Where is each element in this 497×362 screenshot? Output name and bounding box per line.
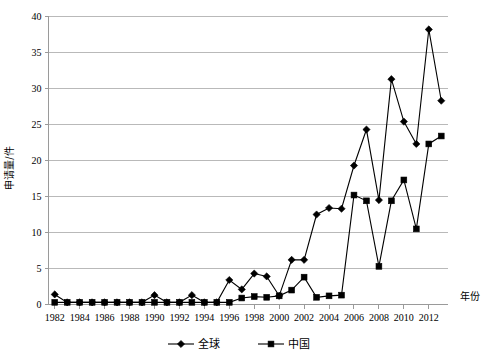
x-tick-label: 1988: [120, 312, 140, 323]
data-point-marker: [127, 299, 133, 305]
data-point-marker: [77, 299, 83, 305]
data-point-marker: [426, 141, 432, 147]
y-tick-label: 35: [32, 47, 42, 58]
chart-container: 0510152025303540 19821984198619881990199…: [0, 0, 497, 362]
legend-group: 全球中国: [168, 337, 310, 351]
y-tick-label: 25: [32, 119, 42, 130]
data-point-marker: [251, 294, 257, 300]
x-tick-label: 1994: [194, 312, 214, 323]
x-tick-label: 2008: [369, 312, 389, 323]
x-tick-label: 2004: [319, 312, 339, 323]
y-tick-label: 10: [32, 227, 42, 238]
x-tick-label: 1984: [70, 312, 90, 323]
legend-marker-square: [268, 341, 274, 347]
y-tick-label: 0: [37, 299, 42, 310]
y-tick-label: 15: [32, 191, 42, 202]
data-point-marker: [339, 292, 345, 298]
data-point-marker: [164, 299, 170, 305]
x-tick-label: 2000: [269, 312, 289, 323]
x-tick-label: 1996: [219, 312, 239, 323]
legend-marker-diamond: [177, 340, 184, 347]
data-point-marker: [438, 133, 444, 139]
data-point-marker: [188, 292, 195, 299]
data-point-marker: [325, 204, 332, 211]
data-point-marker: [276, 293, 282, 299]
data-point-marker: [364, 198, 370, 204]
x-axis-ticks-group: [55, 305, 429, 309]
data-point-marker: [52, 299, 58, 305]
data-point-marker: [363, 126, 370, 133]
data-point-marker: [376, 263, 382, 269]
data-point-marker: [388, 76, 395, 83]
data-point-marker: [51, 291, 58, 298]
x-tick-label: 2010: [394, 312, 414, 323]
y-tick-label: 20: [32, 155, 42, 166]
data-point-marker: [425, 26, 432, 33]
y-axis-ticks-group: [45, 17, 49, 305]
data-point-marker: [177, 299, 183, 305]
data-point-marker: [289, 287, 295, 293]
x-axis-tick-labels-group: 1982198419861988199019921994199619982000…: [45, 312, 439, 323]
x-axis-title: 年份: [460, 290, 480, 302]
data-point-marker: [139, 299, 145, 305]
data-point-marker: [288, 256, 295, 263]
data-point-marker: [314, 294, 320, 300]
data-point-marker: [313, 211, 320, 218]
data-point-marker: [301, 274, 307, 280]
y-tick-label: 30: [32, 83, 42, 94]
x-tick-label: 2006: [344, 312, 364, 323]
data-point-marker: [351, 192, 357, 198]
data-point-marker: [114, 299, 120, 305]
y-tick-label: 40: [32, 11, 42, 22]
data-point-marker: [239, 295, 245, 301]
data-point-marker: [226, 299, 232, 305]
data-point-marker: [201, 299, 207, 305]
data-point-marker: [152, 299, 158, 305]
data-point-marker: [301, 256, 308, 263]
data-point-marker: [214, 299, 220, 305]
x-tick-label: 2002: [294, 312, 314, 323]
data-point-marker: [375, 197, 382, 204]
data-point-marker: [388, 198, 394, 204]
legend-label: 全球: [198, 337, 220, 351]
data-point-marker: [151, 292, 158, 299]
x-tick-label: 2012: [419, 312, 439, 323]
data-series-group: [51, 26, 445, 306]
data-point-marker: [413, 226, 419, 232]
data-point-marker: [102, 299, 108, 305]
data-point-marker: [326, 293, 332, 299]
data-point-marker: [89, 299, 95, 305]
y-tick-label: 5: [37, 263, 42, 274]
y-axis-tick-labels-group: 0510152025303540: [32, 11, 42, 310]
line-chart: 0510152025303540 19821984198619881990199…: [0, 0, 497, 362]
data-point-marker: [438, 97, 445, 104]
data-point-marker: [263, 273, 270, 280]
legend-label: 中国: [288, 338, 310, 351]
data-point-marker: [401, 177, 407, 183]
data-point-marker: [350, 162, 357, 169]
x-tick-label: 1986: [95, 312, 115, 323]
gridlines-group: [49, 17, 448, 305]
data-point-marker: [189, 299, 195, 305]
x-tick-label: 1998: [244, 312, 264, 323]
data-point-marker: [413, 140, 420, 147]
data-point-marker: [338, 205, 345, 212]
x-tick-label: 1992: [169, 312, 189, 323]
data-point-marker: [264, 294, 270, 300]
series-line-全球: [55, 29, 442, 302]
data-point-marker: [64, 299, 70, 305]
y-axis-title: 申请量/件: [3, 146, 15, 189]
x-tick-label: 1982: [45, 312, 65, 323]
x-tick-label: 1990: [144, 312, 164, 323]
